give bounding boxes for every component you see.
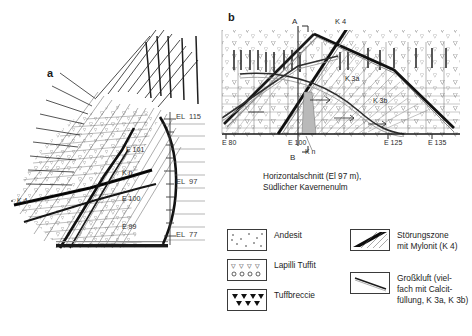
panel-b-label-e80: E 80 [222, 139, 236, 146]
panel-a-label-e99: E 99 [122, 223, 136, 230]
svg-text:▽: ▽ [255, 263, 260, 269]
panel-b-label-e135: E 135 [428, 139, 446, 146]
panel-b-label-kn: K n [305, 148, 316, 155]
panel-b-label-a: A [292, 18, 297, 26]
panel-a-label-el77: EL 77 [176, 231, 197, 239]
panel-b-label-k4: K 4 [335, 18, 346, 26]
panel-a-label-k4: K 4 [17, 197, 28, 204]
panel-a-label-e101: E 101 [126, 146, 144, 153]
panel-a-label-el115: EL 115 [176, 113, 201, 121]
legend-label-stoerungszone: Störungszone mit Mylonit (K 4) [397, 229, 458, 252]
legend-label-grosskluft: Großkluft (viel- fach mit Calcit- füllun… [397, 272, 468, 306]
legend-label-tuffbreccie: Tuffbreccie [274, 289, 315, 301]
elevation-axis-a [164, 112, 176, 245]
panel-a-drawing: ▽ ▽ [0, 0, 236, 270]
panel-b-label-e100: E 100 [288, 139, 306, 146]
legend-item-grosskluft: Großkluft (viel- fach mit Calcit- füllun… [350, 272, 468, 306]
legend-item-tuffbreccie: Tuffbreccie [227, 289, 315, 311]
panel-b-label-k3b: K 3b [373, 97, 387, 104]
panel-a-label-kn: K n [122, 169, 133, 176]
stoerungszone-swatch [350, 229, 390, 251]
geological-figure: a ▽ ▽ [0, 0, 472, 336]
panel-b-label-k3a: K 3a [345, 75, 359, 82]
legend-item-andesit: Andesit [227, 229, 302, 251]
svg-text:▽: ▽ [239, 263, 244, 269]
panel-a-label-el97: EL 97 [176, 178, 197, 186]
legend-label-andesit: Andesit [274, 229, 302, 241]
panel-b-label-e125: E 125 [384, 139, 402, 146]
legend-item-stoerungszone: Störungszone mit Mylonit (K 4) [350, 229, 458, 252]
svg-text:▽: ▽ [247, 263, 252, 269]
panel-b-label-b: B [290, 154, 295, 162]
panel-b-caption: Horizontalschnitt (El 97 m), Südlicher K… [263, 171, 463, 193]
tuffbreccie-swatch [227, 289, 267, 311]
grosskluft-swatch [350, 272, 390, 294]
panel-a-label-e100: E 100 [122, 195, 140, 202]
legend-item-lapilli: ▽▽ ▽▽ Lapilli Tuffit [227, 259, 316, 281]
legend-label-lapilli: Lapilli Tuffit [274, 259, 316, 271]
